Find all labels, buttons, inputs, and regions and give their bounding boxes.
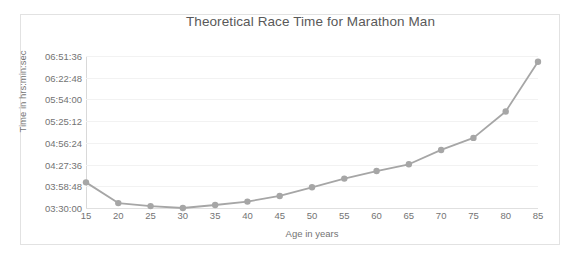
- x-tick-label: 45: [265, 210, 295, 221]
- y-axis-tick-labels: 03:30:0003:58:4804:27:3604:56:2405:25:12…: [20, 56, 82, 208]
- data-point: [535, 59, 541, 65]
- y-tick-label: 04:56:24: [24, 137, 82, 148]
- x-tick-label: 65: [394, 210, 424, 221]
- plot-area: [86, 56, 538, 208]
- x-tick-label: 50: [297, 210, 327, 221]
- x-tick-label: 40: [232, 210, 262, 221]
- data-point: [503, 108, 509, 114]
- chart-title: Theoretical Race Time for Marathon Man: [0, 14, 583, 29]
- y-tick-label: 05:54:00: [24, 94, 82, 105]
- x-tick-label: 70: [426, 210, 456, 221]
- x-tick-label: 60: [362, 210, 392, 221]
- x-tick-label: 25: [136, 210, 166, 221]
- x-axis-tick-labels: 152025303540455055606570758085: [86, 210, 538, 224]
- x-tick-label: 35: [200, 210, 230, 221]
- x-tick-label: 80: [491, 210, 521, 221]
- series-markers: [83, 59, 541, 212]
- x-axis-title: Age in years: [86, 228, 538, 239]
- data-point: [212, 202, 218, 208]
- x-tick-label: 55: [329, 210, 359, 221]
- x-tick-label: 30: [168, 210, 198, 221]
- x-tick-label: 85: [523, 210, 553, 221]
- data-series-line: [86, 56, 538, 208]
- data-point: [373, 168, 379, 174]
- gridline: [86, 208, 538, 209]
- data-point: [309, 184, 315, 190]
- data-point: [438, 147, 444, 153]
- x-tick-label: 75: [458, 210, 488, 221]
- y-tick-label: 05:25:12: [24, 116, 82, 127]
- y-tick-label: 06:51:36: [24, 51, 82, 62]
- data-point: [83, 179, 89, 185]
- data-point: [277, 193, 283, 199]
- data-point: [244, 198, 250, 204]
- y-tick-label: 03:58:48: [24, 181, 82, 192]
- y-tick-label: 06:22:48: [24, 72, 82, 83]
- x-tick-label: 20: [103, 210, 133, 221]
- data-point: [406, 161, 412, 167]
- data-point: [147, 203, 153, 209]
- data-point: [341, 175, 347, 181]
- data-point: [115, 200, 121, 206]
- y-tick-label: 04:27:36: [24, 159, 82, 170]
- x-tick-label: 15: [71, 210, 101, 221]
- data-point: [470, 135, 476, 141]
